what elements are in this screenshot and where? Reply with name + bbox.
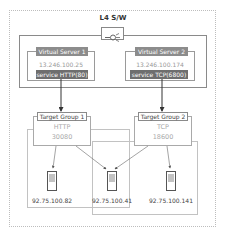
server-2-ip: 92.75.100.41 — [87, 197, 137, 204]
server-3-ip: 92.75.100.141 — [146, 197, 196, 204]
target-group-1-protocol: HTTP — [33, 122, 91, 132]
virtual-server-1-service: service HTTP(80) — [36, 70, 88, 79]
virtual-server-1-ip: 13.246.100.25 — [27, 61, 95, 68]
target-group-2-port: 18600 — [134, 132, 192, 142]
target-group-2-protocol: TCP — [134, 122, 192, 132]
virtual-server-1-label: Virtual Server 1 — [36, 47, 88, 56]
virtual-server-2-label: Virtual Server 2 — [135, 47, 188, 56]
virtual-server-2-ip: 13.246.100.174 — [125, 61, 195, 68]
target-group-2-label: Target Group 2 — [138, 112, 188, 121]
server-icon — [166, 171, 176, 191]
network-switch-icon — [101, 27, 124, 40]
target-group-1-port: 30080 — [33, 132, 91, 142]
server-1-ip: 92.75.100.82 — [27, 197, 77, 204]
server-icon — [47, 171, 57, 191]
server-icon — [107, 171, 117, 191]
virtual-server-2-service: service TCP(6800) — [130, 70, 188, 79]
l4-switch-title: L4 S/W — [83, 14, 143, 22]
target-group-1-label: Target Group 1 — [37, 112, 87, 121]
